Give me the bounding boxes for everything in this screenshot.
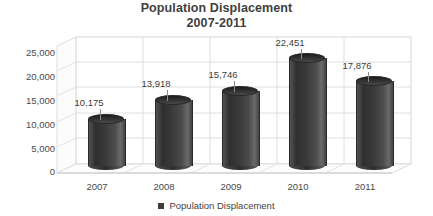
bar-2010[interactable] <box>289 58 325 166</box>
x-tick-label-2007: 2007 <box>70 181 124 192</box>
chart-legend: Population Displacement <box>0 200 433 211</box>
x-tick-label-2009: 2009 <box>204 181 258 192</box>
bar-body <box>222 91 260 166</box>
bar-label-leader <box>368 72 369 82</box>
square-marker-icon <box>158 203 164 209</box>
bar-2009[interactable] <box>222 91 258 166</box>
bar-2011[interactable] <box>356 81 392 166</box>
x-tick-label-2008: 2008 <box>137 181 191 192</box>
bar-top-ellipse <box>356 76 392 86</box>
bar-body <box>356 81 394 166</box>
bar-value-label-2008: 13,918 <box>129 78 183 89</box>
x-tick-label-2011: 2011 <box>338 181 392 192</box>
bar-value-label-2011: 17,876 <box>330 60 384 71</box>
bar-top-ellipse <box>88 114 124 124</box>
bar-value-label-2009: 15,746 <box>196 69 250 80</box>
bar-2008[interactable] <box>155 100 191 166</box>
x-tick-label-2010: 2010 <box>271 181 325 192</box>
chart-container: Population Displacement 2007-2011 25,000… <box>0 0 433 216</box>
bar-label-leader <box>167 90 168 101</box>
bar-body <box>155 100 193 166</box>
bar-label-leader <box>100 109 101 120</box>
bar-body <box>88 119 126 166</box>
legend-item-label[interactable]: Population Displacement <box>169 200 274 211</box>
bar-top-ellipse <box>289 53 325 63</box>
bar-label-leader <box>234 81 235 92</box>
bar-top-ellipse <box>155 95 191 105</box>
bar-2007[interactable] <box>88 119 124 166</box>
bar-top-ellipse <box>222 86 258 96</box>
bar-body <box>289 58 327 166</box>
bar-value-label-2007: 10,175 <box>62 97 116 108</box>
bar-value-label-2010: 22,451 <box>263 37 317 48</box>
bar-label-leader <box>301 49 302 59</box>
